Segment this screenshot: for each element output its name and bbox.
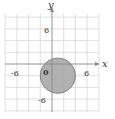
x-tick-label-6: 6	[84, 69, 89, 78]
y-tick-label-neg6: -6	[38, 96, 46, 105]
y-tick-label-6: 6	[44, 26, 49, 35]
y-axis-label: y	[47, 0, 54, 10]
x-tick-label-neg6: -6	[11, 69, 19, 78]
x-axis-arrow-icon	[95, 62, 100, 66]
origin-label: 0	[43, 67, 49, 77]
x-axis-label: x	[102, 58, 108, 69]
coordinate-plane: x y -6 6 6 -6 0	[0, 0, 115, 119]
